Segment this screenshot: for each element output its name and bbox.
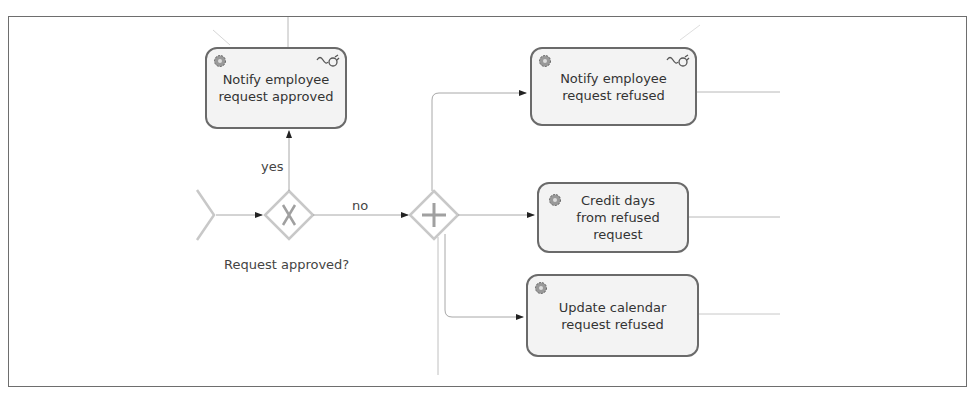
gear-icon [547, 192, 563, 208]
diagram-canvas [0, 0, 974, 397]
task-label: Update calendarrequest refused [551, 299, 675, 333]
gear-icon [533, 280, 549, 296]
flow-label-no: no [352, 198, 368, 213]
sequence-flow[interactable] [445, 234, 523, 317]
gear-icon [537, 53, 553, 69]
exclusive-gateway[interactable] [265, 191, 313, 239]
task-label: Notify employeerequest approved [211, 71, 342, 105]
task-label: Notify employeerequest refused [552, 70, 675, 104]
gear-icon [212, 53, 228, 69]
sequence-flow[interactable] [432, 93, 526, 191]
plug-icon [316, 54, 340, 68]
task-label: Credit daysfrom refusedrequest [558, 192, 667, 243]
task-credit-days[interactable]: Credit daysfrom refusedrequest [537, 182, 689, 253]
outgoing-flow-line[interactable] [680, 25, 700, 40]
task-notify-employee-refused[interactable]: Notify employeerequest refused [530, 47, 697, 126]
task-notify-employee-approved[interactable]: Notify employeerequest approved [205, 47, 347, 129]
gateway-label: Request approved? [224, 257, 349, 272]
parallel-gateway[interactable] [410, 191, 458, 239]
previous-shape-edge [197, 190, 214, 240]
task-update-calendar[interactable]: Update calendarrequest refused [526, 274, 699, 357]
incoming-flow-line[interactable] [213, 30, 230, 45]
flow-label-yes: yes [261, 159, 283, 174]
plug-icon [666, 54, 690, 68]
